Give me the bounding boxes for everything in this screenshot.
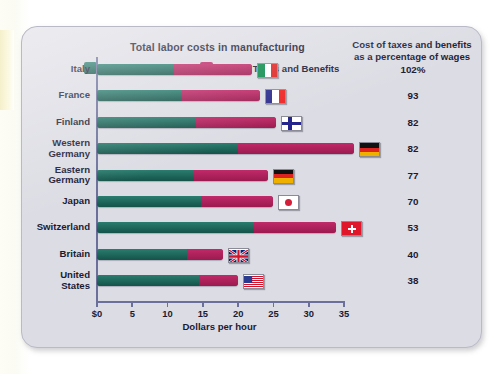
bar-segment-direct-pay[interactable]	[97, 170, 194, 181]
country-label-japan: Japan	[21, 196, 90, 207]
tax-percentage-value: 82	[390, 143, 436, 154]
bar-segment-payroll-taxes[interactable]	[196, 117, 276, 128]
country-label-line: Germany	[21, 149, 90, 160]
flag-icon-germany	[273, 169, 294, 184]
x-tick-5	[131, 301, 133, 307]
country-label-eastern-germany: EasternGermany	[21, 165, 90, 186]
x-tick-label-35: 35	[339, 308, 349, 319]
flag-icon-japan	[278, 195, 299, 210]
plot-area: $05101520253035 Dollars per hour Italy10…	[22, 27, 481, 347]
country-label-britain: Britain	[21, 249, 90, 260]
flag-icon-usa	[243, 274, 264, 289]
x-tick-35	[343, 301, 345, 307]
bar-segment-payroll-taxes[interactable]	[254, 222, 337, 233]
tax-percentage-value: 82	[390, 117, 436, 128]
bar-segment-direct-pay[interactable]	[97, 143, 238, 154]
bar-segment-payroll-taxes[interactable]	[187, 249, 223, 260]
bar-segment-payroll-taxes[interactable]	[238, 143, 354, 154]
country-label-line: France	[21, 90, 90, 101]
country-label-finland: Finland	[21, 117, 90, 128]
x-tick-label-10: 10	[162, 308, 172, 319]
country-label-line: Japan	[21, 196, 90, 207]
country-label-italy: Italy	[21, 64, 90, 75]
bar-row: EasternGermany77	[22, 169, 481, 191]
x-tick-label-15: 15	[198, 308, 208, 319]
scan-background: Total labor costs in manufacturing Cost …	[0, 0, 500, 374]
x-tick-25	[273, 301, 275, 307]
x-axis-label: Dollars per hour	[96, 321, 343, 332]
x-tick-label-0: $0	[92, 308, 102, 319]
x-tick-label-5: 5	[130, 308, 135, 319]
stacked-bar-britain[interactable]	[97, 249, 223, 260]
x-tick-30	[308, 301, 310, 307]
country-label-line: Italy	[21, 64, 90, 75]
bar-row: Finland82	[22, 116, 481, 138]
tax-percentage-value: 40	[390, 249, 436, 260]
bar-row: Japan70	[22, 195, 481, 217]
stacked-bar-japan[interactable]	[97, 196, 273, 207]
bar-segment-direct-pay[interactable]	[97, 117, 196, 128]
bar-segment-direct-pay[interactable]	[97, 196, 201, 207]
flag-icon-italy	[257, 63, 278, 78]
country-label-line: Switzerland	[21, 222, 90, 233]
bar-segment-payroll-taxes[interactable]	[174, 64, 252, 75]
x-tick-label-30: 30	[303, 308, 313, 319]
bar-segment-direct-pay[interactable]	[97, 222, 254, 233]
flag-icon-uk	[228, 248, 249, 263]
bar-segment-payroll-taxes[interactable]	[199, 275, 238, 286]
tax-percentage-value: 93	[390, 90, 436, 101]
bar-segment-direct-pay[interactable]	[97, 90, 182, 101]
bar-row: Switzerland53	[22, 221, 481, 243]
country-label-line: Britain	[21, 249, 90, 260]
stacked-bar-western-germany[interactable]	[97, 143, 354, 154]
stacked-bar-italy[interactable]	[97, 64, 252, 75]
bar-row: France93	[22, 89, 481, 111]
flag-icon-france	[265, 89, 286, 104]
stacked-bar-eastern-germany[interactable]	[97, 170, 268, 181]
country-label-line: Finland	[21, 117, 90, 128]
bar-segment-payroll-taxes[interactable]	[182, 90, 260, 101]
flag-icon-germany	[359, 142, 380, 157]
flag-icon-finland	[281, 116, 302, 131]
scan-edge-artifact	[0, 30, 14, 110]
bar-segment-direct-pay[interactable]	[97, 275, 199, 286]
tax-percentage-value: 53	[390, 222, 436, 233]
country-label-line: Germany	[21, 175, 90, 186]
x-tick-0	[96, 301, 98, 307]
bar-row: WesternGermany82	[22, 142, 481, 164]
country-label-france: France	[21, 90, 90, 101]
bar-row: UnitedStates38	[22, 274, 481, 296]
flag-icon-switzerland	[341, 221, 362, 236]
country-label-western-germany: WesternGermany	[21, 138, 90, 159]
tax-percentage-value: 70	[390, 196, 436, 207]
x-tick-label-20: 20	[233, 308, 243, 319]
bar-row: Italy102%	[22, 63, 481, 85]
bar-segment-direct-pay[interactable]	[97, 64, 174, 75]
x-tick-10	[167, 301, 169, 307]
country-label-switzerland: Switzerland	[21, 222, 90, 233]
stacked-bar-finland[interactable]	[97, 117, 276, 128]
x-tick-20	[237, 301, 239, 307]
x-tick-15	[202, 301, 204, 307]
country-label-united-states: UnitedStates	[21, 270, 90, 291]
bar-segment-direct-pay[interactable]	[97, 249, 187, 260]
bar-row: Britain40	[22, 248, 481, 270]
country-label-line: States	[21, 281, 90, 292]
bar-segment-payroll-taxes[interactable]	[194, 170, 268, 181]
stacked-bar-united-states[interactable]	[97, 275, 238, 286]
x-tick-label-25: 25	[268, 308, 278, 319]
tax-percentage-value: 102%	[390, 64, 436, 75]
stacked-bar-switzerland[interactable]	[97, 222, 336, 233]
bar-segment-payroll-taxes[interactable]	[201, 196, 274, 207]
stacked-bar-france[interactable]	[97, 90, 260, 101]
tax-percentage-value: 77	[390, 170, 436, 181]
tax-percentage-value: 38	[390, 275, 436, 286]
chart-card: Total labor costs in manufacturing Cost …	[21, 26, 482, 348]
